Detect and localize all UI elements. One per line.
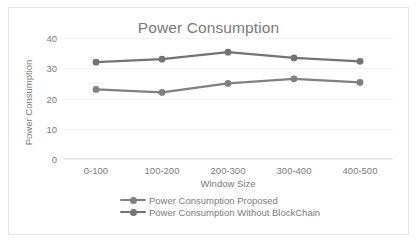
data-point <box>291 75 298 82</box>
data-point <box>225 80 232 87</box>
x-tick-label: 300-400 <box>277 165 312 176</box>
chart-title: Power Consumption <box>9 19 408 37</box>
data-point <box>159 56 166 63</box>
legend-item[interactable]: Power Consumption Without BlockChain <box>9 206 408 218</box>
x-tick-label: 400-500 <box>343 165 378 176</box>
data-point <box>225 49 232 56</box>
chart-figure: Power Consumption Power Consumption 0102… <box>8 7 409 235</box>
y-tick-label: 30 <box>46 63 57 74</box>
gridline <box>63 159 393 160</box>
x-axis-title: Window Size <box>63 178 393 189</box>
legend-marker-icon <box>120 207 146 217</box>
x-tick-label: 200-300 <box>211 165 246 176</box>
legend-marker-icon <box>120 195 146 205</box>
legend-item[interactable]: Power Consumption Proposed <box>9 194 408 206</box>
y-tick-label: 10 <box>46 123 57 134</box>
chart-legend: Power Consumption ProposedPower Consumpt… <box>9 194 408 218</box>
series-1 <box>93 49 364 66</box>
legend-label: Power Consumption Without BlockChain <box>149 207 320 218</box>
plot-area: 010203040 0-100100-200200-300300-400400-… <box>63 38 393 159</box>
series-0 <box>93 75 364 95</box>
y-tick-label: 20 <box>46 93 57 104</box>
x-tick-label: 100-200 <box>145 165 180 176</box>
x-tick-label: 0-100 <box>84 165 108 176</box>
data-point <box>291 55 298 62</box>
y-tick-label: 40 <box>46 33 57 44</box>
data-point <box>357 79 364 86</box>
data-point <box>93 59 100 66</box>
data-point <box>357 58 364 65</box>
legend-label: Power Consumption Proposed <box>149 195 278 206</box>
series-lines <box>63 38 393 159</box>
y-tick-label: 0 <box>52 154 57 165</box>
data-point <box>93 86 100 93</box>
data-point <box>159 89 166 96</box>
y-axis-title: Power Consumption <box>23 48 34 158</box>
